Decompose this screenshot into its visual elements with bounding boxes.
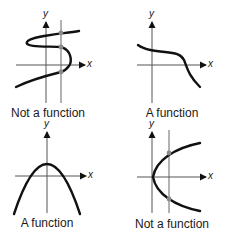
intersection-point [59,31,64,36]
x-axis-label: x [208,171,213,181]
y-axis-label: y [149,9,154,19]
y-axis-label: y [43,9,48,19]
panel-caption: A function [146,107,199,119]
panel-4 [137,130,206,213]
panel-caption: A function [21,217,74,229]
panel-caption: Not a function [135,218,209,230]
x-axis-label: x [88,170,93,180]
panel-3 [14,132,86,214]
intersection-point [167,151,172,156]
intersection-point [59,45,64,50]
intersection-point [167,197,172,202]
s-curve [16,31,79,87]
intersection-point [59,70,64,75]
panel-caption: Not a function [11,107,85,119]
y-axis-label: y [149,119,154,129]
y-axis-label: y [44,119,49,129]
panel-2 [137,22,206,103]
x-axis-label: x [87,59,92,69]
decreasing-curve [138,45,200,87]
panel-1 [16,20,85,103]
x-axis-label: x [208,59,213,69]
